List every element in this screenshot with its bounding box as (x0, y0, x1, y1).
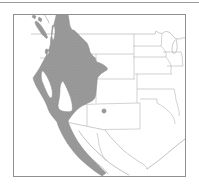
range-map-figure (0, 0, 199, 191)
map-background (14, 15, 186, 177)
map-canvas (0, 0, 199, 191)
isolated-record-dot (102, 109, 106, 113)
